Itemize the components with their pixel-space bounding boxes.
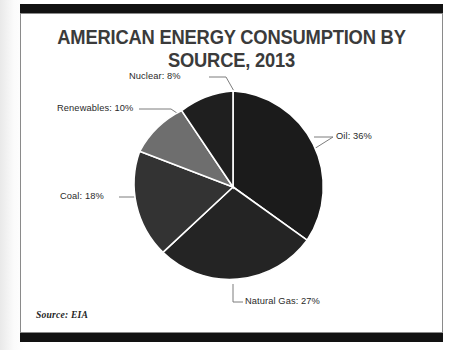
card-bottom-band (20, 333, 443, 342)
pie-label-coal: Coal: 18% (60, 191, 104, 201)
pie-label-natural-gas: Natural Gas: 27% (245, 296, 320, 306)
pie-label-oil: Oil: 36% (336, 131, 372, 141)
pie-chart (21, 14, 442, 332)
chart-card: AMERICAN ENERGY CONSUMPTION BY SOURCE, 2… (20, 13, 443, 333)
source-note: Source: EIA (36, 309, 88, 320)
card-top-band (20, 4, 443, 13)
pie-label-renewables: Renewables: 10% (57, 103, 133, 113)
pie-label-nuclear: Nuclear: 8% (129, 71, 181, 81)
leader-line-natural-gas (233, 284, 243, 302)
scanned-page: AMERICAN ENERGY CONSUMPTION BY SOURCE, 2… (0, 0, 463, 350)
